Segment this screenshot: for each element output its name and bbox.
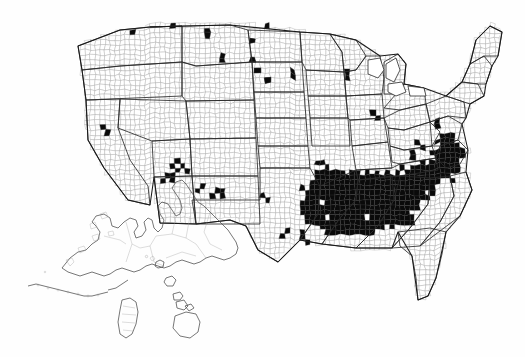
- county-polygon: [239, 218, 245, 224]
- county-polygon: [174, 152, 181, 158]
- county-polygon: [430, 95, 434, 100]
- county-polygon: [239, 172, 245, 178]
- county-polygon: [225, 37, 231, 44]
- county-polygon: [174, 163, 180, 168]
- county-polygon: [175, 28, 180, 34]
- county-polygon: [275, 78, 281, 83]
- county-polygon: [174, 63, 179, 68]
- county-polygon-present: [209, 193, 216, 199]
- county-polygon: [126, 164, 130, 171]
- county-polygon: [264, 32, 270, 38]
- county-polygon: [220, 122, 225, 128]
- county-polygon: [265, 98, 271, 104]
- county-polygon: [255, 233, 260, 238]
- county-polygon: [125, 71, 130, 76]
- county-polygon: [464, 93, 471, 99]
- county-polygon: [269, 67, 275, 73]
- county-polygon: [295, 34, 300, 39]
- county-polygon: [195, 44, 200, 49]
- county-polygon: [110, 160, 116, 166]
- county-polygon: [315, 229, 320, 235]
- county-polygon: [224, 27, 230, 33]
- county-polygon-present: [360, 200, 366, 205]
- county-polygon: [100, 80, 106, 85]
- county-polygon-present: [371, 199, 375, 206]
- county-polygon: [204, 117, 210, 124]
- county-polygon: [364, 241, 370, 245]
- county-polygon: [230, 87, 235, 94]
- county-polygon-present: [334, 211, 340, 215]
- county-polygon: [95, 60, 100, 66]
- county-polygon: [125, 140, 130, 145]
- county-polygon: [279, 68, 286, 73]
- county-polygon: [90, 75, 96, 80]
- county-polygon: [224, 118, 229, 124]
- county-polygon: [210, 158, 216, 164]
- county-polygon: [355, 150, 360, 155]
- county-polygon: [285, 208, 290, 214]
- county-polygon: [421, 225, 426, 231]
- county-polygon: [260, 104, 266, 109]
- county-polygon: [230, 168, 235, 174]
- county-polygon: [266, 108, 271, 114]
- county-polygon: [95, 110, 101, 115]
- county-polygon-present: [395, 196, 399, 201]
- county-polygon: [229, 78, 235, 84]
- county-polygon: [340, 150, 345, 156]
- county-polygon: [210, 103, 215, 110]
- county-polygon: [200, 149, 206, 154]
- county-polygon: [200, 83, 205, 88]
- county-polygon-present: [349, 184, 355, 190]
- county-polygon: [180, 102, 186, 109]
- county-polygon: [290, 34, 296, 40]
- county-polygon-present: [414, 190, 420, 196]
- county-polygon: [284, 243, 291, 249]
- county-polygon: [180, 38, 184, 43]
- county-polygon: [209, 123, 216, 129]
- county-polygon: [190, 68, 195, 74]
- county-polygon: [229, 182, 236, 187]
- county-polygon: [355, 234, 360, 239]
- county-polygon: [91, 106, 95, 111]
- county-polygon: [279, 168, 285, 174]
- county-polygon: [270, 104, 276, 108]
- county-polygon: [325, 214, 330, 220]
- county-polygon: [294, 179, 301, 184]
- county-polygon: [255, 228, 260, 233]
- county-polygon-present: [450, 152, 456, 157]
- county-polygon: [284, 118, 290, 124]
- county-polygon: [260, 213, 265, 218]
- county-polygon: [165, 157, 170, 164]
- county-polygon: [295, 230, 301, 235]
- county-polygon: [194, 63, 200, 68]
- county-polygon: [209, 128, 216, 133]
- county-polygon: [205, 43, 211, 49]
- county-polygon: [149, 124, 155, 129]
- county-polygon: [185, 207, 191, 213]
- county-polygon: [279, 53, 285, 58]
- county-polygon: [444, 183, 450, 188]
- county-polygon: [100, 149, 105, 154]
- county-polygon: [460, 88, 465, 94]
- county-polygon: [329, 160, 334, 165]
- county-polygon: [165, 37, 171, 43]
- county-polygon: [125, 45, 130, 51]
- county-polygon: [165, 213, 171, 218]
- county-polygon: [95, 55, 100, 61]
- county-polygon: [160, 188, 165, 193]
- county-polygon: [369, 149, 374, 154]
- county-polygon: [216, 58, 220, 63]
- county-polygon: [254, 222, 260, 228]
- county-polygon: [444, 97, 449, 103]
- county-polygon: [480, 38, 486, 44]
- county-polygon: [126, 120, 131, 126]
- county-polygon: [176, 88, 180, 93]
- county-polygon: [270, 208, 276, 213]
- county-polygon: [135, 80, 140, 86]
- county-polygon: [175, 39, 181, 43]
- county-polygon: [214, 177, 221, 183]
- county-polygon: [365, 150, 370, 155]
- county-polygon: [99, 70, 105, 75]
- county-polygon: [179, 83, 186, 89]
- county-polygon-present: [410, 214, 414, 221]
